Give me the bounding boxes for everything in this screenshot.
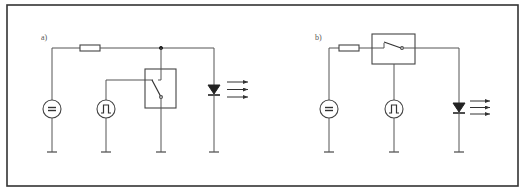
panel-a-switch-contact-wire <box>158 48 161 80</box>
panel-a-led-diode-icon <box>208 85 220 94</box>
panel-a-switch-blade-icon <box>152 80 161 97</box>
panel-b-switch-pivot-icon <box>401 47 404 50</box>
panel-b-label: b) <box>315 33 322 42</box>
panel-b-dc-wire-top <box>329 48 339 100</box>
figure-frame <box>7 5 518 186</box>
panel-b-switch-to-led-wire <box>404 48 460 103</box>
panel-a-label: a) <box>41 33 47 42</box>
panel-b-pulse-source-icon <box>385 100 403 118</box>
panel-a-light-emission-arrows-icon <box>227 82 248 97</box>
panel-b-resistor-icon <box>339 45 359 51</box>
panel-a-resistor-icon <box>80 45 100 51</box>
panel-b-circuit <box>320 34 490 152</box>
panel-b-switch-blade-icon <box>384 42 401 48</box>
panel-b-dc-source-icon <box>320 100 338 118</box>
panel-a-switch-pivot-icon <box>160 96 163 99</box>
panel-a-circuit <box>43 45 248 152</box>
panel-b-led-diode-icon <box>453 103 465 112</box>
panel-a-pulse-source-icon <box>97 100 115 118</box>
panel-b-light-emission-arrows-icon <box>470 101 490 114</box>
panel-a-dc-source-icon <box>43 100 61 118</box>
panel-b-switch-box <box>372 34 415 64</box>
circuit-diagram <box>0 0 524 194</box>
